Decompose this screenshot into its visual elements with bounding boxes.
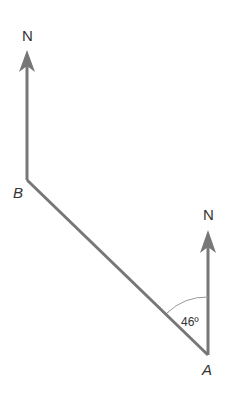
angle-label: 46º — [181, 316, 199, 328]
diagram-canvas — [0, 0, 231, 398]
point-label-b: B — [13, 185, 23, 200]
point-label-a: A — [202, 362, 212, 377]
north-label-b: N — [22, 28, 33, 43]
angle-arc — [167, 297, 208, 313]
north-label-a: N — [203, 207, 214, 222]
